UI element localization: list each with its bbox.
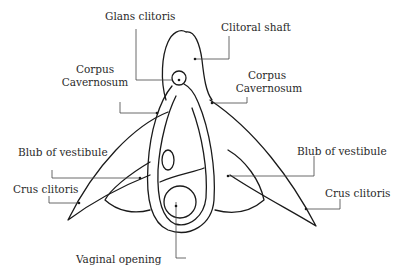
left-bulb-shape bbox=[105, 162, 150, 212]
label-bulb-vestibule-right: Blub of vestibule bbox=[297, 145, 387, 157]
label-corpus-cavernosum-right-line1: Corpus bbox=[237, 69, 297, 81]
label-crus-clitoris-right: Crus clitoris bbox=[325, 187, 390, 199]
label-corpus-cavernosum-left-line1: Corpus bbox=[65, 63, 125, 75]
label-crus-clitoris-left: Crus clitoris bbox=[13, 183, 78, 195]
label-corpus-cavernosum-right-line2: Cavernosum bbox=[234, 82, 304, 94]
vestibule-inner-shape bbox=[158, 96, 207, 225]
urethral-opening-shape bbox=[162, 150, 174, 170]
clitoris-anatomy-diagram bbox=[0, 0, 396, 279]
vaginal-opening-shape bbox=[164, 186, 196, 218]
right-crus-shape bbox=[210, 100, 316, 226]
label-bulb-vestibule-left: Blub of vestibule bbox=[18, 146, 108, 158]
label-vaginal-opening: Vaginal opening bbox=[76, 253, 162, 265]
label-glans-clitoris: Glans clitoris bbox=[105, 10, 175, 22]
label-corpus-cavernosum-left-line2: Cavernosum bbox=[60, 76, 130, 88]
label-clitoral-shaft: Clitoral shaft bbox=[221, 21, 291, 33]
glans-shape bbox=[172, 71, 186, 85]
